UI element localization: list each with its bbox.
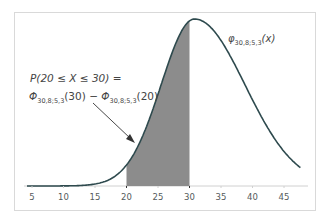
x-tick-label: 25 — [153, 192, 164, 202]
x-tick-labels: 51015202530354045 — [29, 192, 289, 202]
probability-label-line1: P(20 ≤ X ≤ 30) = — [30, 72, 122, 84]
x-tick-label: 35 — [216, 192, 227, 202]
annotation-arrow — [93, 103, 131, 139]
x-tick-label: 10 — [58, 192, 69, 202]
x-tick-label: 30 — [184, 192, 195, 202]
probability-label-line2: Φ30,8;5,3(30) − Φ30,8;5,3(20) — [29, 90, 158, 105]
curve-label: φ30,8;5,3(x) — [228, 33, 275, 47]
x-tick-label: 5 — [29, 192, 34, 202]
density-chart: 51015202530354045 φ30,8;5,3(x) P(20 ≤ X … — [0, 0, 329, 219]
x-tick-label: 20 — [121, 192, 132, 202]
x-tick-label: 15 — [90, 192, 101, 202]
x-tick-label: 40 — [247, 192, 258, 202]
x-tick-label: 45 — [279, 192, 290, 202]
